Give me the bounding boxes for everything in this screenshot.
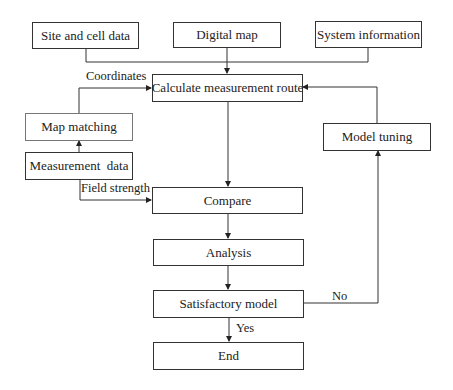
node-measurement-data: Measurement data xyxy=(25,152,133,180)
node-compare: Compare xyxy=(152,187,303,214)
node-analysis: Analysis xyxy=(153,239,304,266)
node-label: Compare xyxy=(204,193,252,209)
node-calculate-measurement-route: Calculate measurement route xyxy=(152,74,303,102)
node-map-matching: Map matching xyxy=(25,113,133,141)
node-label: Calculate measurement route xyxy=(152,80,304,96)
node-satisfactory-model: Satisfactory model xyxy=(153,290,304,318)
node-label: Satisfactory model xyxy=(180,296,278,312)
node-end: End xyxy=(153,342,304,370)
node-label: Analysis xyxy=(206,245,252,261)
node-label: Measurement data xyxy=(30,158,129,174)
node-digital-map: Digital map xyxy=(173,22,281,48)
edge-label-yes: Yes xyxy=(236,321,254,336)
node-label: Map matching xyxy=(41,119,116,135)
node-label: Site and cell data xyxy=(41,28,130,44)
node-label: Digital map xyxy=(196,27,258,43)
node-system-information: System information xyxy=(315,21,422,48)
node-label: System information xyxy=(317,27,420,43)
edge-label-coordinates: Coordinates xyxy=(86,69,146,84)
edge-label-field-strength: Field strength xyxy=(81,181,150,196)
node-model-tuning: Model tuning xyxy=(323,123,431,151)
node-label: Model tuning xyxy=(342,129,412,145)
node-site-and-cell-data: Site and cell data xyxy=(32,22,139,49)
node-label: End xyxy=(218,348,239,364)
edge-label-no: No xyxy=(332,289,347,304)
